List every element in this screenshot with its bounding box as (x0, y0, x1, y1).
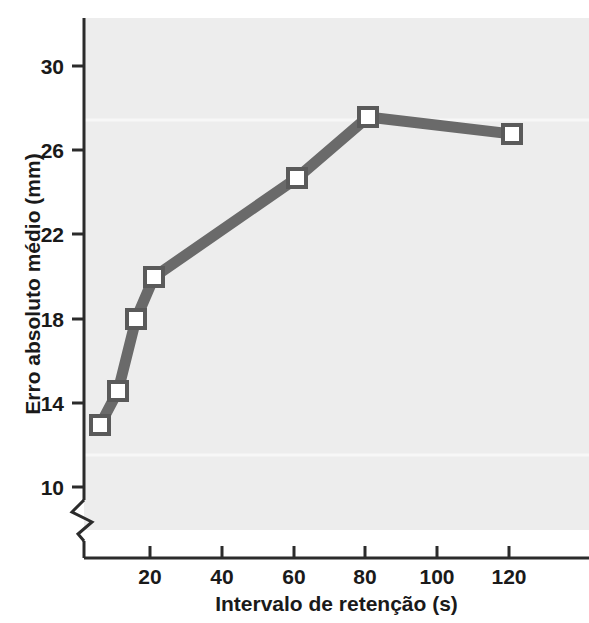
y-tick-marks (72, 66, 84, 487)
data-point (127, 310, 145, 328)
x-tick-label: 20 (120, 566, 180, 587)
x-tick-label: 100 (407, 566, 467, 587)
data-point (503, 125, 521, 143)
data-point (109, 382, 127, 400)
data-point (288, 169, 306, 187)
y-tick-label: 10 (18, 477, 64, 498)
x-tick-marks (150, 546, 509, 558)
chart-canvas (0, 0, 589, 623)
data-point (145, 268, 163, 286)
data-markers (91, 108, 521, 434)
x-tick-label: 80 (335, 566, 395, 587)
x-tick-label: 120 (479, 566, 539, 587)
axis-break-symbol (72, 500, 92, 541)
x-tick-label: 60 (264, 566, 324, 587)
data-point (359, 108, 377, 126)
data-point (91, 416, 109, 434)
y-axis-title: Erro absoluto médio (mm) (21, 119, 45, 449)
chart-figure: 30 26 22 18 14 10 20 40 60 80 100 120 Er… (0, 0, 589, 623)
x-tick-label: 40 (192, 566, 252, 587)
y-tick-label: 30 (18, 56, 64, 77)
x-axis-title: Intervalo de retenção (s) (84, 592, 589, 616)
